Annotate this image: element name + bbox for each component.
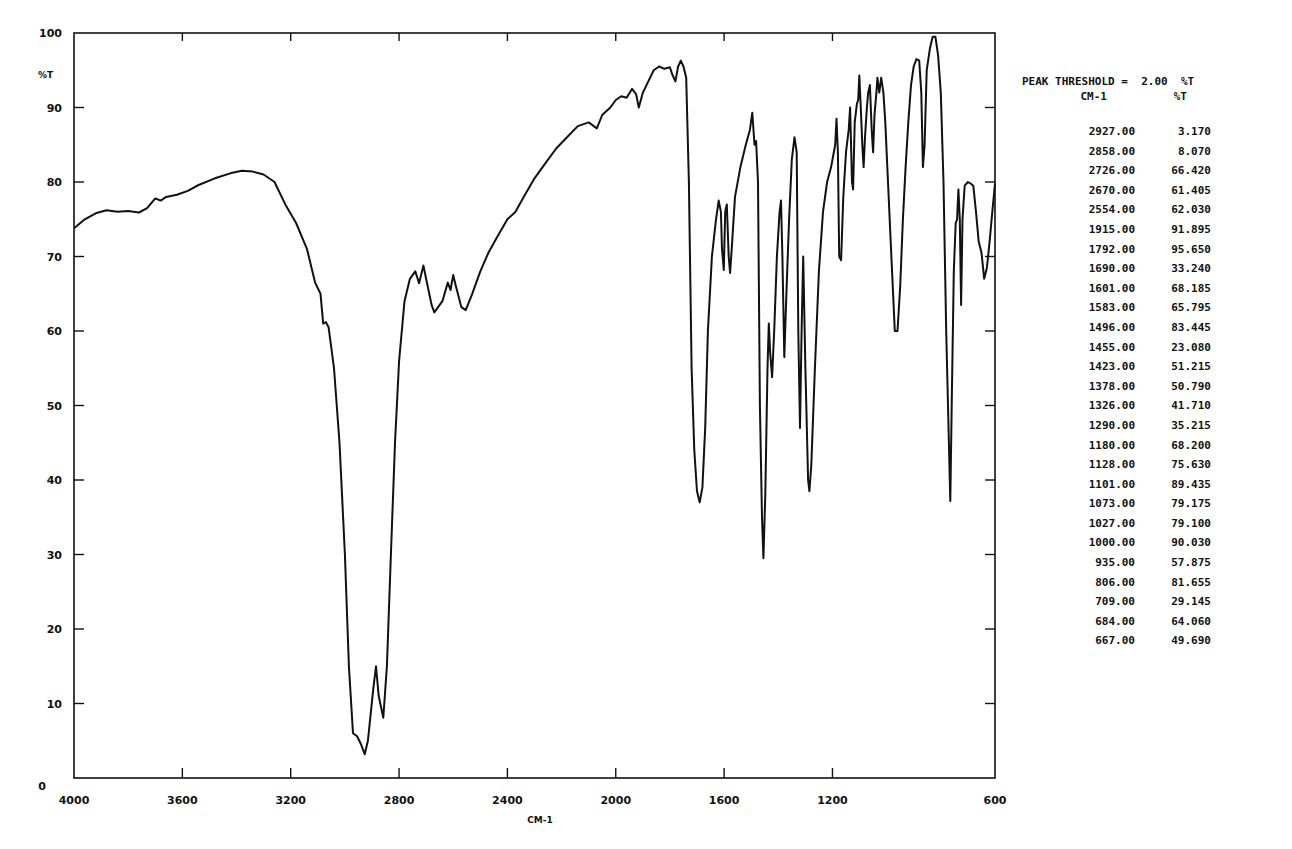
peak-transmittance: 95.650 (1135, 240, 1211, 260)
peak-wavenumber: 1326.00 (1022, 396, 1135, 416)
peak-row: 806.0081.655 (1022, 573, 1262, 593)
y-tick-label: 0 (38, 780, 46, 793)
y-tick-label: 30 (47, 549, 63, 562)
peak-transmittance: 51.215 (1135, 357, 1211, 377)
peak-row: 1180.0068.200 (1022, 436, 1262, 456)
peak-row: 2858.008.070 (1022, 142, 1262, 162)
peak-wavenumber: 1101.00 (1022, 475, 1135, 495)
peak-wavenumber: 1378.00 (1022, 377, 1135, 397)
peak-transmittance: 57.875 (1135, 553, 1211, 573)
peak-row: 1690.0033.240 (1022, 259, 1262, 279)
peak-row: 667.0049.690 (1022, 631, 1262, 651)
y-tick-label: 40 (47, 474, 63, 487)
peak-transmittance: 89.435 (1135, 475, 1211, 495)
peak-transmittance: 35.215 (1135, 416, 1211, 436)
peak-wavenumber: 1290.00 (1022, 416, 1135, 436)
peak-transmittance: 8.070 (1135, 142, 1211, 162)
peak-transmittance: 3.170 (1135, 122, 1211, 142)
peak-transmittance: 75.630 (1135, 455, 1211, 475)
peak-wavenumber: 935.00 (1022, 553, 1135, 573)
x-tick-label: 3600 (167, 794, 198, 807)
peak-wavenumber: 1073.00 (1022, 494, 1135, 514)
peak-transmittance: 68.185 (1135, 279, 1211, 299)
peak-row: 1455.0023.080 (1022, 338, 1262, 358)
y-tick-label: 90 (47, 102, 63, 115)
peak-wavenumber: 2927.00 (1022, 122, 1135, 142)
y-tick-label: 70 (47, 251, 63, 264)
peak-table-header: CM-1 %T (1022, 90, 1262, 103)
peak-transmittance: 64.060 (1135, 612, 1211, 632)
peak-row: 1290.0035.215 (1022, 416, 1262, 436)
peak-transmittance: 49.690 (1135, 631, 1211, 651)
peak-wavenumber: 2726.00 (1022, 161, 1135, 181)
peak-threshold-label: PEAK THRESHOLD = 2.00 %T (1022, 75, 1262, 88)
peak-table-panel: PEAK THRESHOLD = 2.00 %T CM-1 %T 2927.00… (1022, 75, 1262, 651)
peak-row: 1128.0075.630 (1022, 455, 1262, 475)
x-tick-label: 2800 (384, 794, 415, 807)
peak-col-t: %T (1107, 90, 1187, 103)
peak-transmittance: 29.145 (1135, 592, 1211, 612)
peak-wavenumber: 709.00 (1022, 592, 1135, 612)
peak-transmittance: 50.790 (1135, 377, 1211, 397)
peak-wavenumber: 806.00 (1022, 573, 1135, 593)
peak-transmittance: 61.405 (1135, 181, 1211, 201)
x-tick-label: 3200 (275, 794, 306, 807)
x-tick-label: 1600 (709, 794, 740, 807)
peak-wavenumber: 1000.00 (1022, 533, 1135, 553)
peak-transmittance: 33.240 (1135, 259, 1211, 279)
peak-row: 1000.0090.030 (1022, 533, 1262, 553)
peak-wavenumber: 2554.00 (1022, 200, 1135, 220)
peak-row: 684.0064.060 (1022, 612, 1262, 632)
peak-row: 709.0029.145 (1022, 592, 1262, 612)
peak-row: 1583.0065.795 (1022, 298, 1262, 318)
x-tick-label: 2000 (600, 794, 631, 807)
peak-row: 1601.0068.185 (1022, 279, 1262, 299)
peak-transmittance: 79.175 (1135, 494, 1211, 514)
y-tick-label: 50 (47, 400, 63, 413)
peak-row: 1326.0041.710 (1022, 396, 1262, 416)
y-tick-label: 20 (47, 623, 63, 636)
y-tick-label: 60 (47, 325, 63, 338)
peak-wavenumber: 2670.00 (1022, 181, 1135, 201)
y-tick-label: 10 (47, 698, 63, 711)
x-tick-label: 600 (984, 794, 1007, 807)
peak-wavenumber: 684.00 (1022, 612, 1135, 632)
peak-table-rows: 2927.003.1702858.008.0702726.0066.420267… (1022, 122, 1262, 651)
peak-wavenumber: 1792.00 (1022, 240, 1135, 260)
x-tick-label: 2400 (492, 794, 523, 807)
y-tick-label: 80 (47, 176, 63, 189)
peak-transmittance: 41.710 (1135, 396, 1211, 416)
plot-frame (74, 33, 995, 778)
peak-wavenumber: 1128.00 (1022, 455, 1135, 475)
peak-row: 1073.0079.175 (1022, 494, 1262, 514)
peak-wavenumber: 1455.00 (1022, 338, 1135, 358)
peak-wavenumber: 1601.00 (1022, 279, 1135, 299)
peak-transmittance: 83.445 (1135, 318, 1211, 338)
x-axis-title: CM-1 (527, 815, 553, 825)
peak-row: 1378.0050.790 (1022, 377, 1262, 397)
peak-wavenumber: 1027.00 (1022, 514, 1135, 534)
peak-row: 2554.0062.030 (1022, 200, 1262, 220)
x-tick-label: 1200 (817, 794, 848, 807)
peak-transmittance: 81.655 (1135, 573, 1211, 593)
ir-spectrum-chart: 0102030405060708090100 40003600320028002… (0, 0, 1010, 849)
peak-row: 2670.0061.405 (1022, 181, 1262, 201)
peak-row: 1792.0095.650 (1022, 240, 1262, 260)
peak-row: 2927.003.170 (1022, 122, 1262, 142)
peak-row: 935.0057.875 (1022, 553, 1262, 573)
peak-wavenumber: 1423.00 (1022, 357, 1135, 377)
peak-transmittance: 62.030 (1135, 200, 1211, 220)
peak-transmittance: 91.895 (1135, 220, 1211, 240)
peak-row: 1027.0079.100 (1022, 514, 1262, 534)
x-tick-label: 4000 (59, 794, 90, 807)
peak-row: 1423.0051.215 (1022, 357, 1262, 377)
y-axis-title: %T (38, 70, 54, 80)
peak-row: 1101.0089.435 (1022, 475, 1262, 495)
peak-row: 1496.0083.445 (1022, 318, 1262, 338)
peak-transmittance: 68.200 (1135, 436, 1211, 456)
peak-wavenumber: 1690.00 (1022, 259, 1135, 279)
peak-wavenumber: 1180.00 (1022, 436, 1135, 456)
peak-wavenumber: 2858.00 (1022, 142, 1135, 162)
peak-transmittance: 79.100 (1135, 514, 1211, 534)
peak-row: 2726.0066.420 (1022, 161, 1262, 181)
